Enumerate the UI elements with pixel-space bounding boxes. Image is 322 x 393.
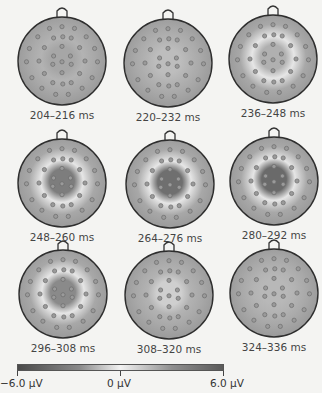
colorbar-mid-label: 0 µV — [107, 377, 131, 389]
topomap-2 — [120, 5, 216, 109]
topomap-5 — [122, 126, 218, 230]
topomap-9 — [226, 235, 322, 339]
topomap-1 — [14, 3, 110, 107]
topomap-time-label: 308–320 ms — [114, 343, 224, 355]
topomap-6 — [226, 123, 322, 227]
topomap-4 — [14, 125, 110, 229]
colorbar — [17, 364, 224, 371]
topomap-time-label: 236–248 ms — [218, 107, 322, 119]
topomap-3 — [225, 1, 321, 105]
colorbar-tick-max — [223, 371, 224, 376]
topomap-time-label: 296–308 ms — [8, 342, 118, 354]
colorbar-tick-mid — [120, 371, 121, 376]
topomap-8 — [121, 237, 217, 341]
topomap-time-label: 324–336 ms — [219, 341, 322, 353]
topomap-7 — [15, 236, 111, 340]
topomap-time-label: 204–216 ms — [7, 109, 117, 121]
topomap-time-label: 220–232 ms — [113, 111, 223, 123]
colorbar-tick-min — [17, 371, 18, 376]
colorbar-max-label: 6.0 µV — [210, 377, 244, 389]
colorbar-min-label: −6.0 µV — [0, 377, 43, 389]
